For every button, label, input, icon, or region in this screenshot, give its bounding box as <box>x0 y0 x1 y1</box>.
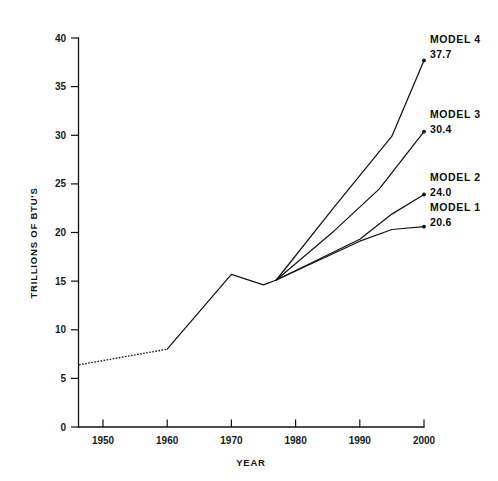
x-axis-title: YEAR <box>236 457 266 468</box>
series-end-markers <box>422 59 426 229</box>
series-line-model-4 <box>276 60 424 280</box>
y-tick-label-20: 20 <box>55 227 67 238</box>
y-axis-tick-labels: 40 35 30 25 20 15 10 5 0 <box>55 33 67 433</box>
series-label-model-2: MODEL 2 <box>430 171 481 183</box>
historical-dotted-segment <box>79 349 167 365</box>
end-dot-model-1 <box>422 225 426 229</box>
series-label-model-1: MODEL 1 <box>430 201 481 213</box>
y-tick-label-10: 10 <box>55 324 67 335</box>
x-tick-label-1950: 1950 <box>92 435 115 446</box>
series-value-model-4: 37.7 <box>430 48 452 60</box>
x-tick-label-1980: 1980 <box>284 435 307 446</box>
y-tick-label-40: 40 <box>55 33 67 44</box>
x-tick-label-1960: 1960 <box>156 435 179 446</box>
line-chart: 40 35 30 25 20 15 10 5 0 TRILLIONS OF BT… <box>0 0 498 481</box>
series-line-model-1 <box>276 227 424 280</box>
x-axis-tick-labels: 1950 1960 1970 1980 1990 2000 <box>92 435 436 446</box>
end-dot-model-2 <box>422 193 426 197</box>
y-tick-label-0: 0 <box>60 422 66 433</box>
y-axis-title: TRILLIONS OF BTU'S <box>28 187 39 298</box>
series-label-model-4: MODEL 4 <box>430 33 481 45</box>
historical-solid-segment <box>167 274 276 349</box>
x-tick-label-1990: 1990 <box>349 435 372 446</box>
series-line-model-3 <box>276 132 424 280</box>
series-value-model-2: 24.0 <box>430 186 452 198</box>
x-axis-group: 1950 1960 1970 1980 1990 2000 YEAR <box>79 420 436 469</box>
series-value-model-1: 20.6 <box>430 216 452 228</box>
end-dot-model-3 <box>422 130 426 134</box>
chart-page: 40 35 30 25 20 15 10 5 0 TRILLIONS OF BT… <box>0 0 498 481</box>
y-tick-label-5: 5 <box>60 373 66 384</box>
y-tick-label-35: 35 <box>55 81 67 92</box>
y-tick-label-15: 15 <box>55 276 67 287</box>
y-axis-ticks <box>71 38 79 427</box>
series-line-model-2 <box>276 195 424 281</box>
series-label-model-3: MODEL 3 <box>430 108 481 120</box>
end-dot-model-4 <box>422 59 426 63</box>
y-tick-label-25: 25 <box>55 178 67 189</box>
x-tick-label-2000: 2000 <box>413 435 436 446</box>
series-end-labels: MODEL 4 37.7 MODEL 3 30.4 MODEL 2 24.0 M… <box>430 33 481 228</box>
x-axis-ticks <box>103 420 424 428</box>
y-axis-group: 40 35 30 25 20 15 10 5 0 TRILLIONS OF BT… <box>28 33 79 433</box>
series-paths <box>79 60 424 364</box>
series-value-model-3: 30.4 <box>430 123 452 135</box>
y-tick-label-30: 30 <box>55 130 67 141</box>
x-tick-label-1970: 1970 <box>220 435 243 446</box>
